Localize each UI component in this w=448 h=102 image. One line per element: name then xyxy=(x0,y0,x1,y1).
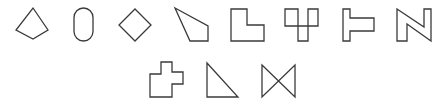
shapes-figure xyxy=(0,0,448,102)
right-triangle-shape xyxy=(207,63,238,97)
fork-shape xyxy=(285,9,318,41)
sideways-t-shape xyxy=(343,9,374,41)
diamond-shape xyxy=(119,9,151,41)
kite-shape xyxy=(16,8,48,39)
stadium-shape xyxy=(74,8,93,41)
shapes-svg xyxy=(0,0,448,102)
l-shape xyxy=(231,9,264,41)
cross-shape xyxy=(150,62,183,97)
n-shape xyxy=(397,9,431,41)
bowtie-shape xyxy=(262,65,295,97)
irregular-quadrilateral-shape xyxy=(175,8,208,41)
